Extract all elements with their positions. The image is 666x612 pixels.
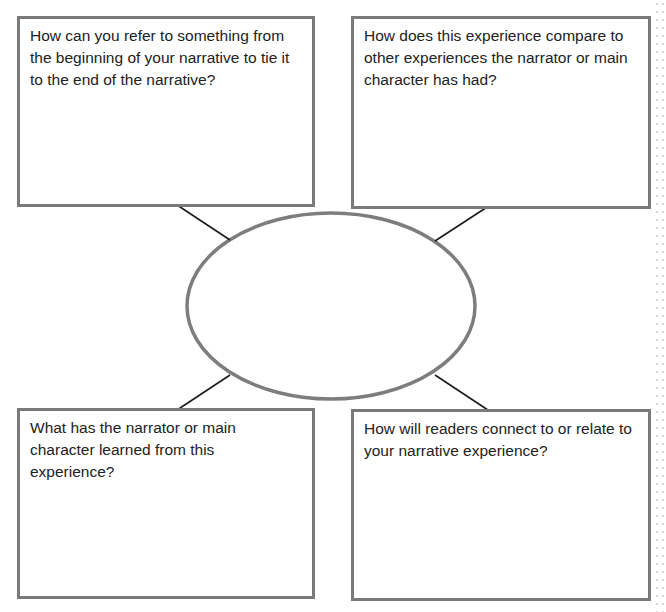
prompt-box-top-left[interactable]: How can you refer to something from the … (17, 16, 315, 207)
center-ellipse[interactable] (187, 213, 475, 399)
prompt-text: What has the narrator or main character … (30, 417, 302, 483)
prompt-text: How does this experience compare to othe… (364, 25, 638, 91)
prompt-box-bottom-right[interactable]: How will readers connect to or relate to… (351, 409, 651, 601)
prompt-text: How can you refer to something from the … (30, 25, 302, 91)
prompt-text: How will readers connect to or relate to… (364, 418, 638, 462)
prompt-box-top-right[interactable]: How does this experience compare to othe… (351, 16, 651, 209)
prompt-box-bottom-left[interactable]: What has the narrator or main character … (17, 408, 315, 599)
